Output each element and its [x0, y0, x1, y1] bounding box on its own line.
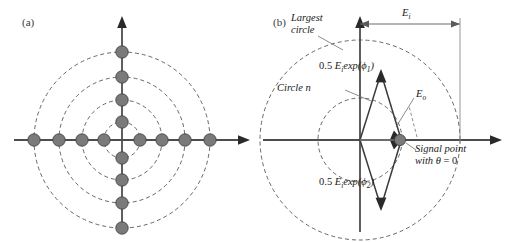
panel-b: (b) Largest circle Circle n 0.5 Eiexp(ϕ1…: [259, 0, 518, 242]
point-x-neg2: [76, 134, 88, 146]
leader-signal-point-dashed: [409, 106, 417, 137]
point-x-pos3: [179, 134, 191, 146]
point-y-neg4: [116, 222, 128, 234]
point-y-pos4: [116, 46, 128, 58]
vector-phi1-sum-leg: [381, 73, 401, 139]
point-x-pos2: [156, 134, 168, 146]
e-in-dimension: [360, 18, 460, 143]
theta-value: = 0: [441, 155, 457, 166]
phasor-upper-close: ): [371, 60, 375, 71]
phasor-upper-label: 0.5 Eiexp(ϕ1): [319, 60, 374, 76]
vector-phi2-arrowhead: [376, 197, 387, 211]
signal-point-marker: [394, 134, 405, 145]
point-y-neg1: [116, 152, 128, 164]
largest-circle-label: Largest circle: [291, 12, 323, 35]
leader-largest-circle: [318, 36, 343, 50]
phasor-upper-exp: exp(: [343, 60, 361, 71]
vector-phi2-sum-leg: [381, 141, 401, 207]
leader-circle-n: [345, 90, 371, 101]
x-axis-arrowhead: [238, 135, 250, 145]
phasor-lower-prefix: 0.5: [319, 176, 335, 187]
y-axis-arrowhead: [117, 16, 127, 28]
point-x-neg3: [53, 134, 65, 146]
e-in-arrow-right: [451, 21, 460, 28]
leader-e-out: [396, 98, 414, 127]
panel-a-label: (a): [22, 16, 34, 28]
vector-phi1: [360, 73, 381, 140]
point-x-pos1: [134, 134, 146, 146]
vector-phi1-arrowhead: [376, 69, 387, 83]
y-axis-arrowhead-b: [355, 16, 365, 28]
signal-point-label-line2: with θ = 0: [415, 155, 466, 167]
point-x-neg1: [98, 134, 110, 146]
signal-point-with: with: [415, 155, 436, 166]
e-in-sub: i: [408, 12, 410, 21]
signal-point-label: Signal point with θ = 0: [415, 143, 466, 166]
phasor-lower-exp: exp(: [343, 176, 361, 187]
point-y-pos1: [116, 116, 128, 128]
x-axis-arrowhead-b: [490, 135, 502, 145]
point-y-neg3: [116, 197, 128, 209]
point-x-neg4: [28, 134, 40, 146]
phasor-lower-label: 0.5 Eiexp(ϕ2): [319, 176, 374, 192]
panel-a: (a): [0, 0, 259, 242]
leader-lines: [318, 36, 417, 150]
point-y-pos2: [116, 94, 128, 106]
phasor-upper-prefix: 0.5: [319, 60, 335, 71]
signal-point-label-line1: Signal point: [415, 143, 466, 155]
point-y-pos3: [116, 71, 128, 83]
circle-n-label: Circle n: [277, 82, 311, 94]
point-y-neg2: [116, 174, 128, 186]
panel-b-graphic: [259, 0, 518, 242]
largest-circle-label-line2: circle: [291, 24, 323, 36]
largest-circle-label-line1: Largest: [291, 12, 323, 24]
e-out-sub: o: [422, 93, 426, 102]
e-in-label: Ei: [402, 7, 411, 23]
point-x-pos4: [204, 134, 216, 146]
panel-b-label: (b): [273, 16, 286, 28]
vector-phi2: [360, 140, 381, 207]
e-out-label: Eo: [416, 88, 426, 104]
figure-container: (a): [0, 0, 518, 242]
phasor-lower-close: ): [371, 176, 375, 187]
panel-a-graphic: [0, 0, 259, 242]
